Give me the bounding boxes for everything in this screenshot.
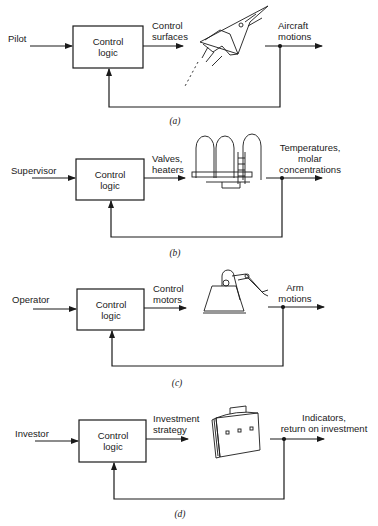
- chemical-reactor-icon: [192, 134, 261, 188]
- label-line: logic: [73, 47, 143, 58]
- label-line: Control: [73, 36, 143, 47]
- label-line: surfaces: [152, 31, 188, 42]
- label-line: Control: [78, 430, 148, 441]
- label-line: logic: [76, 310, 146, 321]
- output-label: Arm motions: [278, 282, 312, 304]
- input-label: Supervisor: [11, 165, 56, 176]
- label-line: logic: [75, 180, 145, 191]
- label-line: Indicators,: [272, 412, 376, 423]
- label-line: Control: [153, 283, 184, 294]
- label-line: molar: [278, 153, 342, 164]
- input-label: Operator: [12, 294, 50, 305]
- label-line: Temperatures,: [278, 142, 342, 153]
- label-line: concentrations: [278, 164, 342, 175]
- output-label: Indicators, return on investment: [272, 412, 376, 434]
- briefcase-icon: [212, 406, 260, 458]
- output-label: Aircraft motions: [278, 20, 311, 42]
- robot-arm-icon: [203, 270, 268, 313]
- input-label: Pilot: [8, 33, 26, 44]
- feedback-diagrams: [0, 0, 378, 526]
- caption: (b): [160, 248, 190, 258]
- label-line: Arm: [278, 282, 312, 293]
- label-line: Investment: [153, 413, 199, 424]
- label-line: Control: [152, 20, 188, 31]
- output-label: Temperatures, molar concentrations: [278, 142, 342, 175]
- input-label: Investor: [15, 428, 49, 439]
- label-line: Valves,: [152, 153, 184, 164]
- label-line: motions: [278, 31, 311, 42]
- caption: (c): [162, 378, 192, 388]
- label-line: Aircraft: [278, 20, 311, 31]
- control-logic-label: Control logic: [73, 36, 143, 58]
- control-logic-label: Control logic: [76, 299, 146, 321]
- label-line: motors: [153, 294, 184, 305]
- control-logic-label: Control logic: [75, 169, 145, 191]
- label-line: logic: [78, 441, 148, 452]
- actuation-label: Valves, heaters: [152, 153, 184, 175]
- label-line: motions: [278, 293, 312, 304]
- aircraft-icon: [184, 6, 268, 88]
- actuation-label: Control motors: [153, 283, 184, 305]
- label-line: Control: [76, 299, 146, 310]
- actuation-label: Control surfaces: [152, 20, 188, 42]
- caption: (a): [160, 116, 190, 126]
- control-logic-label: Control logic: [78, 430, 148, 452]
- caption: (d): [165, 509, 195, 519]
- label-line: heaters: [152, 164, 184, 175]
- label-line: return on investment: [272, 423, 376, 434]
- actuation-label: Investment strategy: [153, 413, 199, 435]
- label-line: Control: [75, 169, 145, 180]
- label-line: strategy: [153, 424, 199, 435]
